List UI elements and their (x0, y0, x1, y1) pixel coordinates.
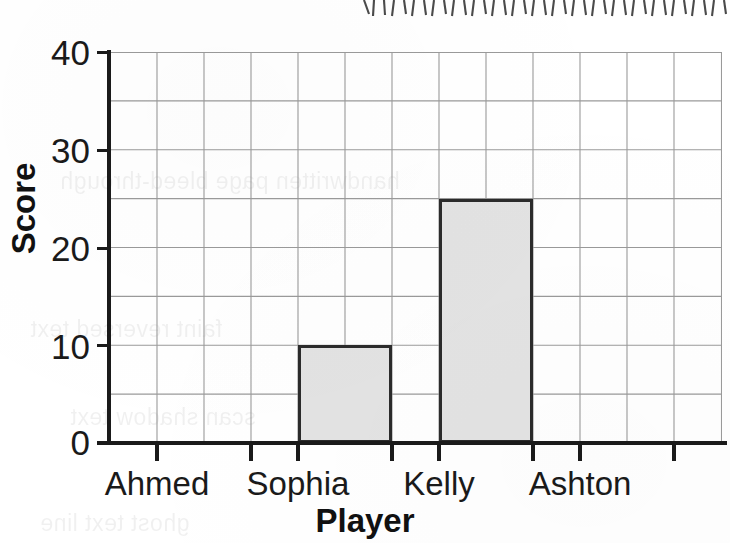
plot-area (110, 52, 722, 443)
y-tick-label-20: 20 (10, 231, 90, 266)
x-tick-label-ashton: Ashton (510, 466, 650, 502)
y-tick-label-10: 10 (10, 329, 90, 364)
y-tick-label-0: 0 (10, 425, 90, 460)
x-axis-line (97, 441, 727, 445)
x-tick-mark (578, 445, 582, 461)
x-tick-label-ahmed: Ahmed (87, 466, 227, 502)
bar-chart: Score 40 30 20 10 0 (0, 0, 730, 543)
x-tick-mark (296, 445, 300, 461)
x-tick-label-kelly: Kelly (369, 466, 509, 502)
y-axis-line (107, 50, 111, 445)
x-tick-label-sophia: Sophia (228, 466, 368, 502)
x-tick-mark (672, 445, 676, 461)
gridlines (110, 52, 722, 443)
x-tick-mark (531, 445, 535, 461)
torn-page-edge-icon (360, 0, 730, 26)
x-tick-mark (437, 445, 441, 461)
bar-kelly[interactable] (439, 199, 533, 443)
bar-sophia[interactable] (298, 345, 392, 443)
x-tick-mark (155, 445, 159, 461)
x-tick-mark (249, 445, 253, 461)
x-axis-title: Player (0, 503, 730, 538)
y-tick-label-30: 30 (10, 133, 90, 168)
x-tick-mark (390, 445, 394, 461)
y-tick-label-40: 40 (10, 35, 90, 70)
